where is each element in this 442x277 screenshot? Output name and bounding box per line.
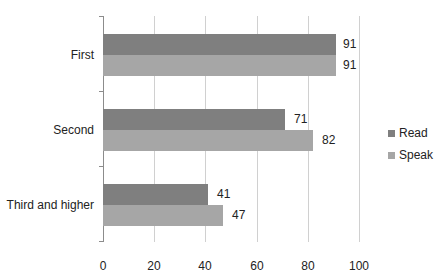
bar-second-read	[103, 109, 285, 130]
x-tick-label: 60	[250, 259, 263, 273]
gridline-100	[359, 16, 360, 242]
value-label: 71	[294, 112, 307, 126]
bar-first-read	[103, 34, 336, 55]
y-tick	[99, 166, 103, 167]
x-tick-label: 40	[198, 259, 211, 273]
value-label: 41	[217, 187, 230, 201]
legend-item-read: Read	[388, 122, 433, 144]
value-label: 91	[343, 58, 356, 72]
value-label: 91	[343, 37, 356, 51]
legend-label: Speak	[399, 148, 433, 162]
bar-first-speak	[103, 55, 336, 76]
legend-label: Read	[399, 126, 428, 140]
bar-third-read	[103, 184, 208, 205]
y-tick	[99, 16, 103, 17]
legend-swatch-icon	[388, 152, 395, 159]
value-label: 47	[232, 208, 245, 222]
bar-second-speak	[103, 130, 313, 151]
value-label: 82	[322, 133, 335, 147]
plot-area: 91 91 71 82 41 47	[103, 16, 359, 242]
x-tick-label: 20	[147, 259, 160, 273]
x-tick-label: 100	[349, 259, 369, 273]
x-tick-label: 0	[100, 259, 107, 273]
x-tick-label: 80	[301, 259, 314, 273]
legend: Read Speak	[388, 122, 433, 166]
legend-swatch-icon	[388, 130, 395, 137]
y-tick	[99, 241, 103, 242]
bar-third-speak	[103, 205, 223, 226]
legend-item-speak: Speak	[388, 144, 433, 166]
category-label: First	[71, 48, 94, 62]
category-label: Second	[53, 123, 94, 137]
category-label: Third and higher	[7, 198, 94, 212]
y-tick	[99, 91, 103, 92]
